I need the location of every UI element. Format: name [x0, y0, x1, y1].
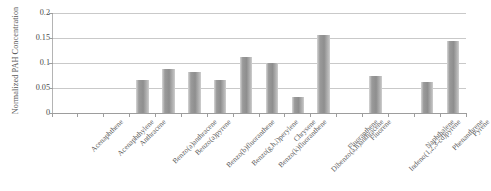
bar-slot [363, 13, 389, 113]
bar [240, 57, 252, 113]
y-axis-tick-label: 0.15 [22, 34, 50, 42]
y-axis-title: Normalized PAH Concentration [11, 2, 20, 120]
bar-slot [78, 13, 104, 113]
bar-slot [311, 13, 337, 113]
bar [421, 82, 433, 113]
bar-slot [285, 13, 311, 113]
bar-slot [156, 13, 182, 113]
x-axis-tick-labels: AcenaphtheneAcenaphthyleneAnthraceneBenz… [52, 118, 466, 190]
bar-slot [440, 13, 466, 113]
bar-slot [207, 13, 233, 113]
bar-slot [130, 13, 156, 113]
y-axis-tick-labels: 0.20.150.10.050 [22, 8, 50, 114]
bar-slot [337, 13, 363, 113]
bar-slot [181, 13, 207, 113]
bar [136, 80, 148, 114]
y-axis-tick-label: 0.1 [22, 59, 50, 67]
bar [447, 41, 459, 114]
bar [214, 80, 226, 114]
bar-slot [259, 13, 285, 113]
bar [188, 72, 200, 113]
bar [292, 97, 304, 114]
bar [369, 76, 381, 113]
bar-slot [52, 13, 78, 113]
y-axis-tick-label: 0.2 [22, 9, 50, 17]
bar [317, 35, 329, 114]
bar-series [52, 13, 466, 113]
bar-slot [388, 13, 414, 113]
y-axis-tick-label: 0 [22, 109, 50, 117]
y-axis-tick-label: 0.05 [22, 84, 50, 92]
bar [162, 69, 174, 114]
bar-slot [104, 13, 130, 113]
bar [266, 63, 278, 113]
bar-slot [414, 13, 440, 113]
bar-slot [233, 13, 259, 113]
